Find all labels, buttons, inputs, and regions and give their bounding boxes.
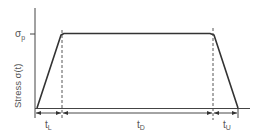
- stress-time-diagram: σp Stress σ(t) tL tD tU: [0, 0, 265, 135]
- label-tD: tD: [137, 119, 145, 131]
- y-axis-label: Stress σ(t): [12, 64, 23, 108]
- peak-stress-label: σp: [15, 28, 25, 42]
- label-tU: tU: [223, 119, 231, 131]
- stress-profile-line: [37, 34, 238, 109]
- label-tL: tL: [45, 119, 52, 131]
